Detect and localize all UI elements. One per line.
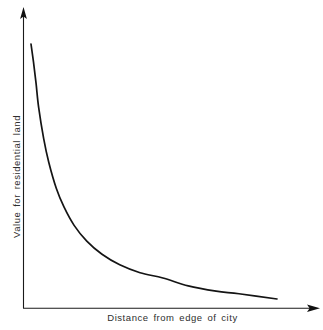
- data-curve-value-for-residential-land: [31, 44, 277, 299]
- x-axis-label: Distance from edge of city: [0, 312, 323, 323]
- chart-container: Distance from edge of city Value for res…: [0, 0, 323, 330]
- y-axis-label: Value for residential land: [11, 222, 323, 238]
- chart-plot-area: [0, 0, 323, 330]
